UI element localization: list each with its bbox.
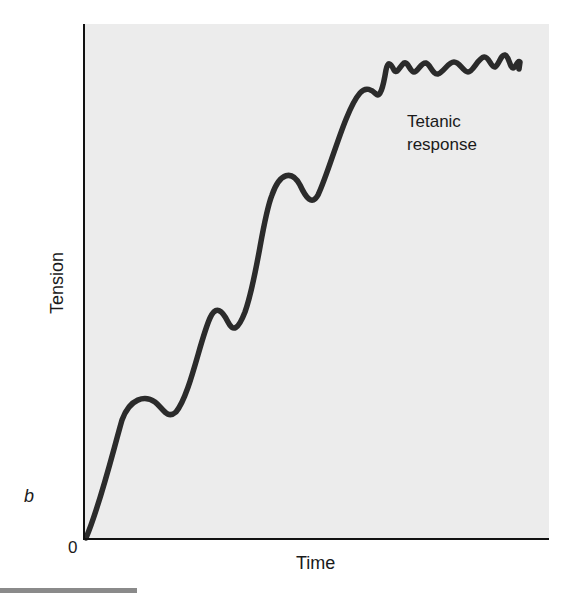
origin-label: 0 xyxy=(68,538,77,558)
panel-label: b xyxy=(24,486,34,507)
y-axis xyxy=(83,24,85,540)
x-axis xyxy=(83,538,549,540)
x-axis-label: Time xyxy=(296,553,335,574)
annotation-line-2: response xyxy=(407,133,477,156)
tension-curve xyxy=(0,0,580,596)
y-axis-label: Tension xyxy=(47,252,68,314)
annotation-line-1: Tetanic xyxy=(407,110,477,133)
tetanic-response-annotation: Tetanic response xyxy=(407,110,477,156)
decorative-rule xyxy=(0,588,137,593)
